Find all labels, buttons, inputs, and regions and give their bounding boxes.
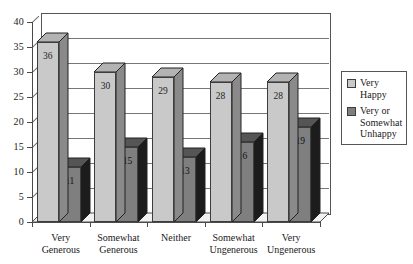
bar-front-face bbox=[210, 82, 232, 222]
y-axis-tick-label: 25 bbox=[2, 92, 24, 102]
bar: 36 bbox=[37, 33, 59, 222]
bar-front-face bbox=[37, 42, 59, 222]
legend-item[interactable]: Very Happy bbox=[347, 77, 401, 100]
bar-front-face bbox=[152, 77, 174, 222]
x-axis-line bbox=[32, 222, 320, 223]
bar: 30 bbox=[94, 63, 116, 222]
x-axis-category-label: SomewhatGenerous bbox=[90, 232, 148, 256]
x-axis-tick-mark bbox=[262, 222, 263, 227]
bar-value-label: 28 bbox=[210, 91, 232, 101]
x-axis-category-label: SomewhatUngenerous bbox=[205, 232, 263, 256]
bar-value-label: 30 bbox=[94, 81, 116, 91]
bar-value-label: 28 bbox=[267, 91, 289, 101]
x-axis-category-label-line: Somewhat bbox=[205, 232, 263, 244]
x-axis-category-label-line: Ungenerous bbox=[205, 244, 263, 256]
legend-label: Very or Somewhat Unhappy bbox=[360, 105, 402, 140]
legend-swatch-icon bbox=[347, 107, 356, 116]
gridline bbox=[41, 63, 329, 64]
y-axis-line bbox=[32, 22, 33, 222]
x-axis-category-label: VeryUngenerous bbox=[262, 232, 320, 256]
y-axis-tick-label: 10 bbox=[2, 167, 24, 177]
bar-chart: 0510152025303540 36113015291328162819 Ve… bbox=[0, 0, 413, 264]
bar-front-face bbox=[94, 72, 116, 222]
x-axis-category-label-line: Neither bbox=[147, 232, 205, 244]
bar-value-label: 36 bbox=[37, 51, 59, 61]
legend-swatch-icon bbox=[347, 79, 356, 88]
legend-label: Very Happy bbox=[360, 77, 387, 100]
bar-front-face bbox=[267, 82, 289, 222]
bar: 29 bbox=[152, 68, 174, 222]
x-axis-tick-mark bbox=[205, 222, 206, 227]
x-axis-category-label: VeryGenerous bbox=[32, 232, 90, 256]
x-axis-category-label: Neither bbox=[147, 232, 205, 244]
legend: Very HappyVery or Somewhat Unhappy bbox=[341, 71, 407, 145]
gridline bbox=[41, 38, 329, 39]
x-axis-category-label-line: Very bbox=[262, 232, 320, 244]
y-axis-tick-label: 0 bbox=[2, 217, 24, 227]
y-axis-tick-label: 30 bbox=[2, 67, 24, 77]
y-axis-tick-label: 35 bbox=[2, 42, 24, 52]
bar-value-label: 29 bbox=[152, 86, 174, 96]
x-axis-category-label-line: Somewhat bbox=[90, 232, 148, 244]
x-axis-category-label-line: Generous bbox=[32, 244, 90, 256]
y-axis-tick-label: 20 bbox=[2, 117, 24, 127]
bar: 28 bbox=[267, 73, 289, 222]
x-axis-category-label-line: Very bbox=[32, 232, 90, 244]
bar: 28 bbox=[210, 73, 232, 222]
y-axis-tick-label: 5 bbox=[2, 192, 24, 202]
x-axis-tick-mark bbox=[90, 222, 91, 227]
y-axis-tick-label: 40 bbox=[2, 17, 24, 27]
x-axis-category-label-line: Generous bbox=[90, 244, 148, 256]
y-axis-tick-label: 15 bbox=[2, 142, 24, 152]
x-axis-tick-mark bbox=[32, 222, 33, 227]
legend-item[interactable]: Very or Somewhat Unhappy bbox=[347, 105, 401, 140]
x-axis-category-label-line: Ungenerous bbox=[262, 244, 320, 256]
x-axis-tick-mark bbox=[147, 222, 148, 227]
x-axis-tick-mark bbox=[320, 222, 321, 227]
